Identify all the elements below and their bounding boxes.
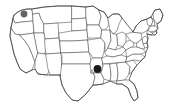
- state-kansas[interactable]: [60, 40, 89, 53]
- state-wyoming[interactable]: [44, 23, 59, 39]
- state-massachusetts[interactable]: [148, 26, 158, 32]
- us-map-svg[interactable]: [0, 0, 170, 108]
- state-florida[interactable]: [117, 80, 138, 101]
- state-texas[interactable]: [60, 64, 95, 101]
- state-colorado[interactable]: [45, 38, 61, 54]
- state-north-dakota[interactable]: [72, 6, 86, 19]
- state-alabama[interactable]: [110, 63, 118, 81]
- state-minnesota[interactable]: [86, 6, 101, 25]
- state-missouri[interactable]: [88, 38, 105, 58]
- state-iowa[interactable]: [87, 25, 102, 38]
- washington-marker[interactable]: [21, 11, 28, 18]
- state-nebraska[interactable]: [59, 30, 88, 41]
- arkansas-marker[interactable]: [94, 65, 102, 73]
- state-wisconsin[interactable]: [99, 10, 109, 30]
- state-oklahoma[interactable]: [61, 52, 91, 64]
- state-boundaries-layer: [10, 6, 163, 101]
- state-south-dakota[interactable]: [72, 18, 87, 31]
- us-map-figure: [0, 0, 170, 108]
